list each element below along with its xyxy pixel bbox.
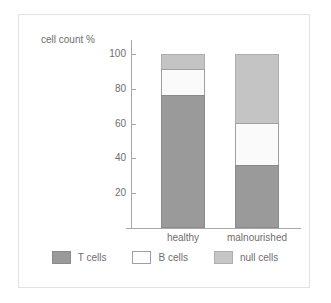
y-tick-mark-100: [131, 54, 136, 55]
x-axis-line: [126, 228, 301, 229]
bar-healthy[interactable]: [161, 54, 205, 228]
y-axis-title: cell count %: [41, 35, 95, 45]
y-tick-80: 80: [61, 84, 126, 94]
y-tick-mark-20: [131, 193, 136, 194]
y-tick-20: 20: [61, 188, 126, 198]
bar-malnourished[interactable]: [235, 54, 279, 228]
bar-malnourished-seg-t-cells[interactable]: [235, 165, 279, 228]
bar-malnourished-seg-null-cells[interactable]: [235, 54, 279, 124]
x-axis-label-malnourished: malnourished: [210, 233, 304, 243]
y-tick-label-80: 80: [66, 84, 126, 94]
plot-area: cell count % 100 80 60 40 20: [19, 15, 311, 235]
legend-item-t-cells[interactable]: T cells: [52, 251, 107, 264]
legend-item-b-cells[interactable]: B cells: [132, 251, 187, 264]
y-tick-60: 60: [61, 119, 126, 129]
legend-swatch-t-cells-icon: [52, 251, 71, 264]
y-tick-mark-40: [131, 158, 136, 159]
y-tick-label-60: 60: [66, 119, 126, 129]
legend-label-t-cells: T cells: [78, 253, 107, 263]
y-axis-line: [131, 40, 132, 229]
bar-healthy-seg-b-cells[interactable]: [161, 69, 205, 96]
bar-healthy-seg-null-cells[interactable]: [161, 54, 205, 70]
bar-malnourished-seg-b-cells[interactable]: [235, 123, 279, 166]
y-tick-label-20: 20: [66, 188, 126, 198]
y-tick-label-40: 40: [66, 153, 126, 163]
legend-label-null-cells: null cells: [240, 253, 278, 263]
legend-swatch-b-cells-icon: [132, 251, 151, 264]
legend-label-b-cells: B cells: [158, 253, 187, 263]
y-tick-100: 100: [61, 49, 126, 59]
legend-item-null-cells[interactable]: null cells: [214, 251, 278, 264]
y-tick-40: 40: [61, 153, 126, 163]
y-tick-mark-60: [131, 124, 136, 125]
bar-healthy-seg-t-cells[interactable]: [161, 95, 205, 228]
chart-figure: cell count % 100 80 60 40 20: [18, 14, 310, 288]
bar-healthy-segments: [161, 54, 205, 228]
chart-legend: T cells B cells null cells: [19, 251, 311, 264]
bar-malnourished-segments: [235, 54, 279, 228]
y-tick-label-100: 100: [66, 49, 126, 59]
y-tick-mark-80: [131, 89, 136, 90]
legend-swatch-null-cells-icon: [214, 251, 233, 264]
